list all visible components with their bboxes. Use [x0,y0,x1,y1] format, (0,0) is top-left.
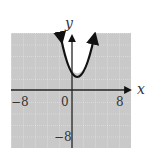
origin-label: 0 [61,96,69,108]
y-tick-neg8: −8 [54,131,72,143]
x-tick-neg8: −8 [11,96,29,108]
x-axis-label: x [137,82,145,96]
x-tick-8: 8 [116,96,124,108]
y-axis-label: y [65,16,73,30]
graph [0,0,159,159]
